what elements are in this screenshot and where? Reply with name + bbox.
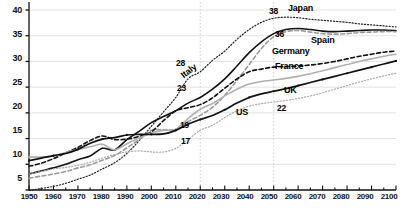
x-tick-2100: 2100: [374, 192, 404, 201]
axes: [29, 2, 396, 190]
y-tick-20: 20: [0, 101, 22, 111]
y-tick-15: 15: [0, 125, 22, 135]
series-label-japan: Japan: [288, 3, 313, 13]
y-tick-25: 25: [0, 77, 22, 87]
series-label-spain: Spain: [311, 35, 335, 45]
series-label-us: US: [236, 107, 248, 117]
y-tick-35: 35: [0, 29, 22, 39]
chart-container: 40 35 30 25 20 15 10 5 1950 1960 1970 19…: [0, 0, 406, 210]
value-label-28: 28: [176, 58, 185, 68]
value-label-22: 22: [277, 103, 286, 113]
y-tick-30: 30: [0, 53, 22, 63]
series-label-france: France: [275, 61, 303, 71]
value-label-38: 38: [269, 6, 278, 16]
value-label-23: 23: [177, 83, 186, 93]
y-tick-5: 5: [0, 173, 22, 183]
series-label-uk: UK: [284, 85, 297, 95]
value-label-19: 19: [180, 120, 189, 130]
value-label-36: 36: [275, 29, 284, 39]
y-tick-40: 40: [0, 5, 22, 15]
value-label-17: 17: [181, 136, 190, 146]
reference-lines: [200, 2, 273, 190]
series-label-germany: Germany: [272, 46, 310, 56]
y-tick-10: 10: [0, 149, 22, 159]
line-chart-plot: [0, 0, 406, 210]
